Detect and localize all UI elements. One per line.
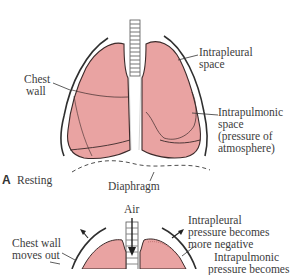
label-intrapulmonic-a-line3: (pressure of — [218, 131, 273, 142]
label-diaphragm: Diaphragm — [108, 181, 160, 192]
label-intrapleural-b-line2: pressure becomes — [188, 227, 269, 238]
left-lung-a — [68, 43, 130, 158]
left-lung-b — [82, 240, 126, 269]
label-intrapulmonic-b-line1: Intrapulmonic — [214, 252, 279, 263]
label-chest-wall-a-line1: Chest — [24, 74, 50, 85]
caption-resting: Resting — [17, 175, 52, 186]
label-air: Air — [124, 204, 139, 215]
label-chest-wall-b-line1: Chest wall — [12, 238, 61, 249]
right-lung-b — [140, 239, 186, 269]
label-intrapulmonic-a-line2: space — [218, 119, 244, 130]
label-intrapleural-a-line1: Intrapleural — [199, 47, 253, 58]
trachea-b — [126, 218, 138, 269]
trachea-a — [129, 20, 141, 150]
label-intrapulmonic-b-line2: pressure becomes — [208, 264, 289, 275]
label-intrapleural-b-line3: more negative — [188, 239, 253, 250]
label-intrapleural-a-line2: space — [199, 59, 225, 70]
label-intrapulmonic-a-line1: Intrapulmonic — [218, 107, 283, 118]
label-chest-wall-b-line2: moves out — [12, 250, 60, 261]
panel-letter-a: A — [2, 173, 11, 187]
label-intrapleural-b-line1: Intrapleural — [188, 215, 242, 226]
label-chest-wall-a-line2: wall — [26, 86, 46, 97]
right-lung-a — [142, 42, 200, 158]
diaphragm-a — [72, 161, 210, 172]
label-intrapulmonic-a-line4: atmosphere) — [218, 143, 275, 154]
